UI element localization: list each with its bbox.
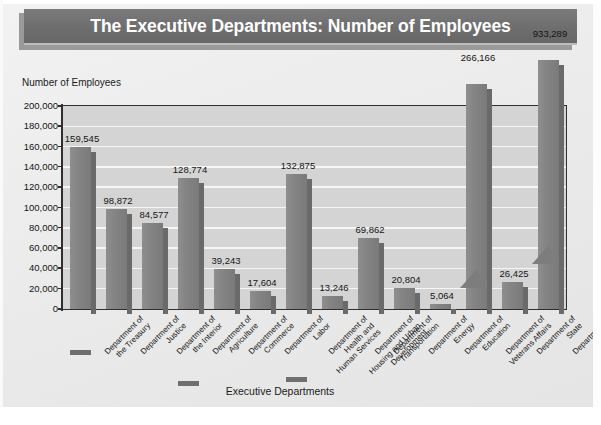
bar-top-face: [286, 377, 307, 382]
y-axis-tick-mark: [58, 166, 62, 168]
bar-value-label: 132,875: [281, 160, 315, 171]
bar-side-face: [91, 152, 96, 314]
page-title: The Executive Departments: Number of Emp…: [90, 16, 510, 37]
bar-body: [178, 178, 199, 309]
bar-side-face: [343, 301, 348, 314]
bar-side-face: [271, 296, 276, 314]
y-axis-tick-label: 100,000: [2, 201, 58, 212]
title-banner: The Executive Departments: Number of Emp…: [24, 9, 577, 45]
y-axis-tick-label: 80,000: [2, 221, 58, 232]
y-axis-tick-mark: [58, 105, 62, 107]
bar-body: [358, 238, 379, 309]
y-axis-tick-labels: 200,000180,000160,000140,000120,000100,0…: [0, 52, 58, 407]
slide-canvas: The Executive Departments: Number of Emp…: [0, 0, 601, 425]
y-axis-tick-mark: [58, 227, 62, 229]
page-edge-top: [0, 0, 601, 4]
y-axis-tick-label: 120,000: [2, 181, 58, 192]
bar-value-label: 266,166: [461, 52, 495, 63]
bar-value-label: 128,774: [173, 164, 207, 175]
y-axis-tick-label: 200,000: [2, 100, 58, 111]
bar-top-face: [70, 350, 91, 355]
bar-side-face: [415, 293, 420, 314]
y-axis-tick-label: 180,000: [2, 120, 58, 131]
bar-body: [214, 269, 235, 309]
bar-body: [502, 282, 523, 309]
bar-side-face: [559, 65, 564, 314]
y-axis-tick-mark: [58, 288, 62, 290]
y-axis-tick-label: 20,000: [2, 282, 58, 293]
bar-side-face: [487, 89, 492, 314]
y-axis-tick-mark: [58, 186, 62, 188]
bar-value-label: 69,862: [355, 224, 384, 235]
bar-value-label: 20,804: [391, 274, 420, 285]
x-axis-title: Executive Departments: [0, 385, 560, 397]
y-axis-tick-mark: [58, 146, 62, 148]
y-axis-tick-mark: [58, 125, 62, 127]
y-axis-tick-label: 60,000: [2, 242, 58, 253]
bar-body: [394, 288, 415, 309]
y-axis-tick-mark: [58, 267, 62, 269]
bar-body: [142, 223, 163, 309]
bar-side-face: [235, 274, 240, 314]
y-axis-tick-label: 40,000: [2, 262, 58, 273]
y-axis-tick-label: 160,000: [2, 140, 58, 151]
bar-value-label: 13,246: [319, 282, 348, 293]
y-axis-tick-mark: [58, 207, 62, 209]
bar-value-label: 39,243: [211, 255, 240, 266]
y-axis-tick-mark: [58, 247, 62, 249]
bar-value-label: 98,872: [103, 195, 132, 206]
bar-body: [106, 209, 127, 309]
bar-side-face: [199, 183, 204, 314]
bar-value-label: 5,064: [430, 290, 454, 301]
page-edge-right: [593, 0, 601, 425]
bar-side-face: [307, 179, 312, 314]
bar-side-face: [451, 309, 456, 314]
y-axis-tick-label: 0: [2, 303, 58, 314]
bar-body: [322, 296, 343, 309]
bar-side-face: [523, 287, 528, 314]
plot-area: [62, 105, 567, 310]
bar-value-label: 84,577: [139, 209, 168, 220]
bar-side-face: [163, 228, 168, 314]
bar-body: [250, 291, 271, 309]
bar-value-label: 933,289: [533, 28, 567, 39]
chart-container: Number of Employees 200,000180,000160,00…: [0, 52, 595, 407]
page-edge-left: [0, 0, 3, 425]
bar-side-face: [127, 214, 132, 314]
bar-value-label: 159,545: [65, 133, 99, 144]
y-axis-tick-label: 140,000: [2, 160, 58, 171]
bar-value-label: 17,604: [247, 277, 276, 288]
bar-body: [430, 304, 451, 309]
bar-body: [70, 147, 91, 309]
bar-body: [538, 60, 559, 309]
bar-side-face: [379, 243, 384, 314]
page-edge-bottom: [0, 407, 601, 425]
bar-value-label: 26,425: [499, 268, 528, 279]
y-axis-tick-mark: [58, 308, 62, 310]
bar-body: [286, 174, 307, 309]
